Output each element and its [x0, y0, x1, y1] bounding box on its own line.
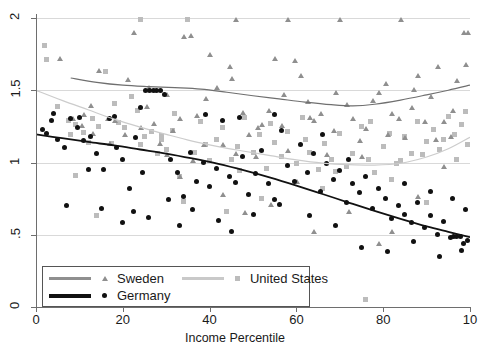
legend-row-1: Sweden United States — [49, 270, 303, 287]
legend-row-2: Germany — [49, 287, 303, 304]
legend-item-germany: Germany — [49, 288, 170, 303]
y-axis-label: 1.5 — [0, 81, 30, 96]
plot-area — [36, 18, 470, 307]
x-axis-label: 20 — [103, 312, 143, 327]
y-axis-tick — [31, 235, 36, 236]
legend-label-sweden: Sweden — [117, 271, 164, 286]
y-axis-label: 1 — [0, 154, 30, 169]
legend-marker-germany — [99, 293, 110, 298]
x-axis-label: 80 — [363, 312, 403, 327]
x-axis-line — [32, 307, 470, 308]
legend-label-germany: Germany — [117, 288, 170, 303]
chart-legend: Sweden United States Germany — [42, 266, 310, 307]
y-axis-tick — [31, 163, 36, 164]
x-axis-label: 0 — [16, 312, 56, 327]
legend-item-united-states: United States — [182, 271, 328, 286]
x-axis-label: 60 — [276, 312, 316, 327]
y-axis-line — [36, 14, 37, 311]
fit-curve-germany — [36, 134, 470, 237]
legend-line-united-states — [182, 277, 224, 280]
y-axis-label: .5 — [0, 226, 30, 241]
y-axis-tick — [31, 18, 36, 19]
x-axis-title: Income Percentile — [0, 331, 470, 345]
legend-label-united-states: United States — [250, 271, 328, 286]
y-axis-label: 2 — [0, 9, 30, 24]
legend-line-sweden — [49, 277, 91, 280]
fit-curve-sweden — [71, 78, 470, 106]
y-axis-label: 0 — [0, 298, 30, 313]
fit-curves-layer — [36, 18, 470, 307]
legend-marker-sweden — [99, 276, 110, 281]
y-axis-tick — [31, 90, 36, 91]
fit-curve-united-states — [36, 90, 470, 165]
legend-item-sweden: Sweden — [49, 271, 164, 286]
legend-line-germany — [49, 294, 91, 298]
x-axis-label: 40 — [190, 312, 230, 327]
legend-marker-united-states — [232, 276, 243, 281]
x-axis-label: 10 — [450, 312, 482, 327]
